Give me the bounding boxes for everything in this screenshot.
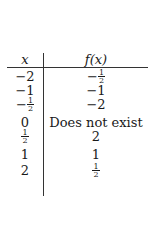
value-text: 2 bbox=[97, 98, 105, 112]
cell-fx: 2 bbox=[44, 129, 148, 143]
cell-x: −1 bbox=[7, 83, 43, 97]
fraction: 12 bbox=[21, 129, 28, 144]
denominator: 2 bbox=[27, 105, 34, 112]
minus-sign: − bbox=[15, 70, 26, 84]
fraction: 12 bbox=[92, 163, 99, 178]
value-text: 1 bbox=[97, 84, 105, 98]
cell-fx: Does not exist bbox=[44, 115, 148, 129]
minus-sign: − bbox=[15, 84, 26, 98]
cell-fx: −1 bbox=[44, 83, 148, 97]
minus-sign: − bbox=[86, 84, 97, 98]
cell-fx: 1 bbox=[44, 147, 148, 161]
value-text: 2 bbox=[26, 70, 34, 84]
minus-sign: − bbox=[86, 98, 97, 112]
value-text: 2 bbox=[21, 164, 29, 178]
value-text: 1 bbox=[21, 148, 29, 162]
header-fx: f(x) bbox=[44, 53, 148, 67]
cell-x: 0 bbox=[7, 115, 43, 129]
header-divider bbox=[7, 67, 148, 68]
denominator: 2 bbox=[92, 171, 99, 178]
minus-sign: − bbox=[16, 98, 27, 112]
value-text: 1 bbox=[92, 148, 100, 162]
cell-x: 1 bbox=[7, 147, 43, 161]
minus-sign: − bbox=[87, 70, 98, 84]
value-text: 2 bbox=[92, 130, 100, 144]
cell-fx: −12 bbox=[44, 69, 148, 83]
cell-fx: 12 bbox=[44, 163, 148, 177]
cell-x: −12 bbox=[7, 97, 43, 111]
header-x: x bbox=[7, 53, 43, 67]
cell-x: 12 bbox=[7, 129, 43, 143]
fraction: 12 bbox=[27, 97, 34, 112]
denominator: 2 bbox=[21, 137, 28, 144]
value-text: Does not exist bbox=[49, 116, 142, 130]
cell-x: 2 bbox=[7, 163, 43, 177]
fraction: 12 bbox=[98, 69, 105, 84]
cell-x: −2 bbox=[7, 69, 43, 83]
cell-fx: −2 bbox=[44, 97, 148, 111]
